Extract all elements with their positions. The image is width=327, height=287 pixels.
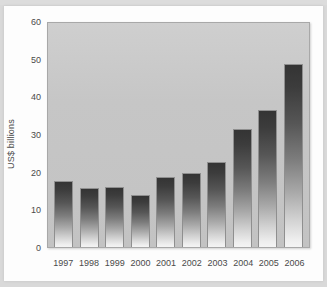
x-axis-tick-2005: 2005 — [259, 258, 278, 268]
x-axis-tick-2002: 2002 — [182, 258, 201, 268]
bar-2002 — [182, 173, 201, 247]
x-axis-tick-2004: 2004 — [233, 258, 252, 268]
y-axis-tick-6: 60 — [31, 18, 41, 27]
x-axis-tick-2006: 2006 — [285, 258, 304, 268]
bar-2005 — [258, 110, 277, 247]
y-axis-tick-1: 10 — [31, 206, 41, 215]
y-axis-tick-0: 0 — [36, 244, 41, 253]
bar-2000 — [131, 195, 150, 247]
scan-artifact-strip — [0, 0, 327, 5]
bar-2001 — [156, 177, 175, 247]
bar-series — [48, 23, 309, 247]
bar-2004 — [233, 129, 252, 247]
bar-1997 — [54, 181, 73, 247]
bar-1998 — [80, 188, 99, 247]
x-axis: 1997 1998 1999 2000 2001 2002 2003 2004 … — [47, 252, 310, 276]
bar-1999 — [105, 187, 124, 247]
y-axis-tick-5: 50 — [31, 55, 41, 64]
figure-card: US$ billions 60 50 40 30 20 10 0 — [4, 6, 323, 281]
y-axis-tick-4: 40 — [31, 93, 41, 102]
y-axis-label: US$ billions — [6, 119, 16, 169]
x-axis-tick-1999: 1999 — [105, 258, 124, 268]
bar-chart-figure: US$ billions 60 50 40 30 20 10 0 — [4, 6, 323, 281]
x-axis-tick-1998: 1998 — [79, 258, 98, 268]
bar-2006 — [284, 64, 303, 247]
x-axis-tick-2000: 2000 — [130, 258, 149, 268]
x-axis-tick-1997: 1997 — [53, 258, 72, 268]
y-axis-tick-3: 30 — [31, 131, 41, 140]
plot-area — [47, 22, 310, 248]
x-axis-tick-2003: 2003 — [207, 258, 226, 268]
x-axis-tick-2001: 2001 — [156, 258, 175, 268]
y-axis: US$ billions 60 50 40 30 20 10 0 — [4, 6, 47, 281]
bar-2003 — [207, 162, 226, 247]
y-axis-tick-2: 20 — [31, 168, 41, 177]
